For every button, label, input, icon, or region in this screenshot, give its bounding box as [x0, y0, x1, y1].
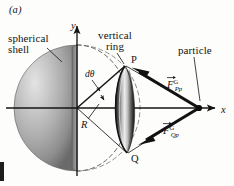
force-letter-pp: F [167, 79, 173, 90]
particle-sight-lines [126, 66, 199, 153]
page-edge-artifact [0, 162, 4, 181]
label-axis-x: x [221, 105, 226, 116]
vector-arrow-icon [167, 75, 176, 80]
label-spherical-shell: spherical shell [8, 33, 68, 56]
vertical-ring [115, 66, 134, 153]
label-force-vector-qp: F GQp [163, 124, 179, 138]
force-symbol-pp: F [167, 79, 173, 90]
force-symbol-qp: F [163, 125, 169, 136]
label-vertical-ring: vertical ring [89, 30, 141, 53]
label-point-q: Q [131, 154, 139, 165]
label-angle-element-dtheta: dθ [85, 70, 95, 80]
label-particle: particle [178, 45, 212, 56]
force-letter-qp: F [163, 125, 169, 136]
figure-gravitational-shell-diagram: (a) spherical shell vertical ring partic… [0, 0, 234, 186]
particle-dot [196, 105, 202, 111]
force-subscript-qp: Qp [171, 131, 179, 138]
label-force-vector-pp: F GPp [167, 78, 182, 92]
label-axis-y: y [71, 21, 76, 32]
diagram-canvas [0, 0, 234, 186]
force-subscript-pp: Pp [175, 85, 183, 92]
panel-letter: (a) [9, 5, 22, 16]
label-radius-r: R [81, 120, 88, 131]
label-point-p: P [131, 55, 137, 66]
vector-arrow-icon [163, 121, 172, 126]
